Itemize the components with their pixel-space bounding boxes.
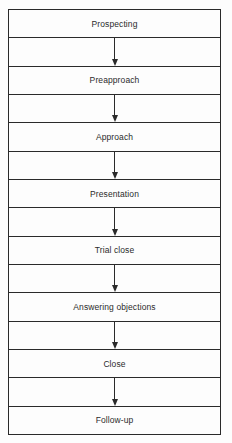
arrow-line	[114, 208, 116, 229]
step-label: Prospecting	[92, 19, 138, 29]
step-label: Trial close	[95, 245, 135, 255]
connector-5	[9, 265, 220, 293]
connector-3	[9, 152, 220, 180]
sales-process-flowchart: Prospecting Preapproach Approach Present…	[8, 9, 221, 435]
step-label: Approach	[96, 132, 133, 142]
step-label: Preapproach	[90, 75, 140, 85]
connector-6	[9, 322, 220, 350]
step-follow-up: Follow-up	[9, 407, 220, 434]
step-label: Answering objections	[73, 302, 155, 312]
arrow-down-icon	[112, 115, 118, 122]
arrow-line	[114, 265, 116, 286]
arrow-down-icon	[112, 59, 118, 66]
arrow-down-icon	[112, 342, 118, 349]
arrow-down-icon	[112, 229, 118, 236]
arrow-down-icon	[112, 172, 118, 179]
arrow-line	[114, 95, 116, 116]
step-trial-close: Trial close	[9, 237, 220, 265]
step-label: Presentation	[90, 189, 139, 199]
step-presentation: Presentation	[9, 180, 220, 208]
connector-1	[9, 38, 220, 66]
step-approach: Approach	[9, 123, 220, 151]
arrow-down-icon	[112, 399, 118, 406]
step-label: Follow-up	[96, 415, 134, 425]
step-close: Close	[9, 350, 220, 378]
arrow-line	[114, 152, 116, 173]
arrow-line	[114, 38, 116, 59]
step-prospecting: Prospecting	[9, 10, 220, 38]
connector-7	[9, 378, 220, 406]
step-label: Close	[103, 359, 125, 369]
connector-4	[9, 208, 220, 236]
connector-2	[9, 95, 220, 123]
arrow-down-icon	[112, 285, 118, 292]
step-preapproach: Preapproach	[9, 67, 220, 95]
arrow-line	[114, 322, 116, 343]
arrow-line	[114, 378, 116, 399]
step-answering-objections: Answering objections	[9, 293, 220, 321]
